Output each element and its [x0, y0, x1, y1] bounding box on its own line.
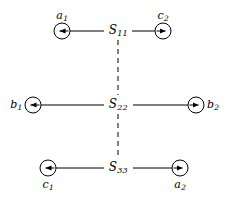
node-label-base-a1: a — [56, 9, 63, 22]
node-label-base-b1: b — [10, 98, 17, 111]
node-label-sub-a1: 1 — [63, 14, 68, 23]
site-label-sub-S33: 33 — [117, 165, 127, 175]
node-label-sub-b1: 1 — [18, 103, 23, 112]
site-label-S11: S11 — [109, 24, 128, 36]
site-label-sub-S11: 11 — [117, 28, 127, 38]
site-label-sub-S22: 22 — [117, 102, 127, 112]
node-label-sub-b2: 2 — [214, 103, 219, 112]
node-label-c1: c1 — [43, 179, 54, 190]
node-label-b1: b1 — [10, 99, 22, 110]
node-label-sub-a2: 2 — [181, 183, 186, 192]
node-label-a1: a1 — [56, 10, 67, 21]
node-label-b2: b2 — [207, 99, 219, 110]
site-label-base-S33: S — [109, 160, 117, 174]
site-label-base-S22: S — [109, 97, 117, 111]
node-label-base-b2: b — [207, 98, 214, 111]
site-label-base-S11: S — [109, 23, 117, 37]
node-label-sub-c2: 2 — [164, 14, 169, 23]
site-label-S33: S33 — [109, 161, 128, 173]
site-label-S22: S22 — [109, 98, 128, 110]
node-label-c2: c2 — [158, 10, 169, 21]
node-label-a2: a2 — [174, 179, 185, 190]
node-label-base-a2: a — [174, 178, 181, 191]
lattice-diagram-figure: a1c2b1b2c1a2S11S22S33 — [0, 0, 230, 200]
node-label-sub-c1: 1 — [49, 183, 54, 192]
